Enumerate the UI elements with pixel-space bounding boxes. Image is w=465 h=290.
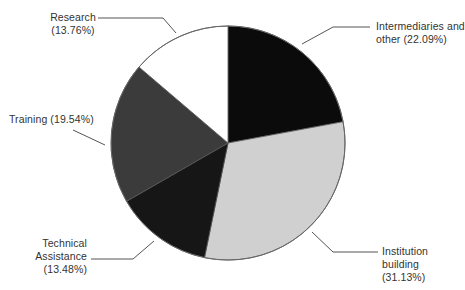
- label-technical-value: (13.48%): [30, 263, 87, 276]
- label-technical-line2: Assistance: [30, 250, 87, 263]
- label-intermediaries-line2: other (22.09%): [376, 33, 465, 46]
- label-training-text: Training (19.54%): [9, 113, 94, 126]
- label-research-name: Research: [44, 11, 102, 24]
- label-technical-line1: Technical: [30, 237, 87, 250]
- label-research-value: (13.76%): [44, 24, 102, 37]
- leader-line-institution-building: [312, 232, 378, 252]
- label-intermediaries: Intermediaries and other (22.09%): [376, 20, 465, 46]
- label-research: Research (13.76%): [44, 11, 102, 37]
- label-institution-building: Institution building (31.13%): [382, 245, 428, 284]
- label-institution-line1: Institution: [382, 245, 428, 258]
- label-institution-line2: building: [382, 258, 428, 271]
- label-intermediaries-line1: Intermediaries and: [376, 20, 465, 33]
- leader-line-training: [73, 130, 105, 145]
- leader-line-technical-assistance: [91, 241, 154, 259]
- label-training: Training (19.54%): [9, 113, 94, 126]
- pie-slices: [111, 26, 345, 260]
- leader-line-research: [98, 18, 176, 33]
- label-technical-assistance: Technical Assistance (13.48%): [30, 237, 87, 276]
- label-institution-value: (31.13%): [382, 271, 428, 284]
- leader-line-intermediaries: [302, 27, 370, 44]
